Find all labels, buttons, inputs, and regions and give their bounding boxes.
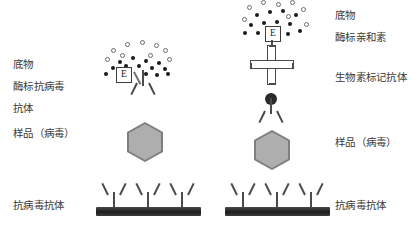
virus-sample-hexagon-right xyxy=(254,130,290,170)
substrate-ring-icon xyxy=(148,53,153,58)
substrate-ring-icon xyxy=(301,7,306,12)
substrate-dot-icon xyxy=(281,9,285,13)
capture-antibody-left-1 xyxy=(103,182,125,208)
antibody-arm-left xyxy=(230,183,237,196)
antibody-arm-left xyxy=(101,183,108,196)
antibody-stem xyxy=(181,192,183,208)
substrate-dot-icon xyxy=(294,13,298,17)
label-left-capture-antibody: 抗病毒抗体 xyxy=(13,199,65,212)
capture-antibody-right-3 xyxy=(300,182,322,208)
substrate-dot-icon xyxy=(157,61,161,65)
label-left-substrate: 底物 xyxy=(13,58,34,71)
microplate-surface-left xyxy=(96,207,201,216)
enzyme-box-left: E xyxy=(116,67,132,83)
substrate-ring-icon xyxy=(154,43,159,48)
antibody-arm-left xyxy=(169,183,176,196)
substrate-ring-icon xyxy=(167,57,172,62)
antibody-arm-right xyxy=(248,183,255,196)
capture-antibody-left-3 xyxy=(171,182,193,208)
cross-cap-bottom xyxy=(269,83,275,85)
enzyme-box-right: E xyxy=(265,26,281,42)
substrate-ring-icon xyxy=(163,48,168,53)
substrate-dot-icon xyxy=(243,31,247,35)
substrate-dot-icon xyxy=(288,22,292,26)
cross-cap-top xyxy=(269,45,275,47)
substrate-dot-icon xyxy=(131,56,135,60)
substrate-ring-icon xyxy=(111,48,116,53)
capture-antibody-right-1 xyxy=(232,182,254,208)
substrate-dot-icon xyxy=(255,13,259,17)
substrate-ring-icon xyxy=(120,53,125,58)
substrate-ring-icon xyxy=(125,42,130,47)
substrate-ring-icon xyxy=(276,2,281,7)
antibody-arm-right xyxy=(258,111,265,124)
antibody-arm-left xyxy=(148,83,155,96)
substrate-dot-icon xyxy=(137,64,141,68)
cross-cap-right xyxy=(292,63,294,69)
antibody-arm-right xyxy=(282,183,289,196)
substrate-dot-icon xyxy=(104,72,108,76)
label-left-antibody: 抗体 xyxy=(13,102,34,115)
antibody-stem xyxy=(142,70,144,86)
substrate-dot-icon xyxy=(118,60,122,64)
substrate-dot-icon xyxy=(144,59,148,63)
antibody-stem xyxy=(310,192,312,208)
antibody-arm-left xyxy=(135,183,142,196)
label-right-sample: 样品（病毒） xyxy=(335,136,397,149)
label-right-biotin-antibody: 生物素标记抗体 xyxy=(335,71,407,84)
antibody-arm-left xyxy=(264,183,271,196)
label-right-capture-antibody: 抗病毒抗体 xyxy=(335,199,387,212)
elisa-diagram-canvas: 底物 酶标抗病毒 抗体 样品（病毒） 抗病毒抗体 底物 酶标亲和素 生物素标记抗… xyxy=(0,0,419,230)
antibody-arm-right xyxy=(130,83,137,96)
substrate-dot-icon xyxy=(275,20,279,24)
substrate-dot-icon xyxy=(256,31,260,35)
detection-antibody-left xyxy=(132,70,154,96)
antibody-arm-right xyxy=(119,183,126,196)
substrate-ring-icon xyxy=(242,17,247,22)
antibody-arm-left xyxy=(298,183,305,196)
antibody-stem xyxy=(270,98,272,114)
substrate-dot-icon xyxy=(298,29,302,33)
substrate-dot-icon xyxy=(262,21,266,25)
antibody-arm-right xyxy=(187,183,194,196)
label-right-substrate: 底物 xyxy=(335,9,356,22)
substrate-ring-icon xyxy=(140,40,145,45)
substrate-ring-icon xyxy=(247,5,252,10)
substrate-ring-icon xyxy=(304,22,309,27)
biotin-labeled-antibody-right xyxy=(260,98,282,124)
antibody-stem xyxy=(113,192,115,208)
virus-sample-hexagon-left xyxy=(127,122,163,162)
antibody-arm-right xyxy=(316,183,323,196)
substrate-dot-icon xyxy=(111,66,115,70)
microplate-surface-right xyxy=(225,207,330,216)
cross-horizontal-bar xyxy=(250,60,294,69)
antibody-arm-right xyxy=(153,183,160,196)
antibody-stem xyxy=(276,192,278,208)
capture-antibody-right-2 xyxy=(266,182,288,208)
capture-antibody-left-2 xyxy=(137,182,159,208)
substrate-dot-icon xyxy=(268,10,272,14)
antibody-stem xyxy=(242,192,244,208)
substrate-dot-icon xyxy=(163,67,167,71)
substrate-dot-icon xyxy=(286,32,290,36)
antibody-arm-left xyxy=(276,111,283,124)
substrate-dot-icon xyxy=(249,23,253,27)
substrate-ring-icon xyxy=(261,0,266,5)
label-left-enzyme-conjugate: 酶标抗病毒 xyxy=(13,80,65,93)
label-left-sample: 样品（病毒） xyxy=(13,127,75,140)
substrate-ring-icon xyxy=(105,57,110,62)
antibody-stem xyxy=(147,192,149,208)
cross-cap-left xyxy=(250,63,252,69)
substrate-dot-icon xyxy=(155,73,159,77)
label-right-enzyme-avidin: 酶标亲和素 xyxy=(335,31,387,44)
substrate-dot-icon xyxy=(166,72,170,76)
avidin-cross-right xyxy=(250,45,294,85)
substrate-ring-icon xyxy=(286,14,291,19)
substrate-ring-icon xyxy=(290,0,295,5)
